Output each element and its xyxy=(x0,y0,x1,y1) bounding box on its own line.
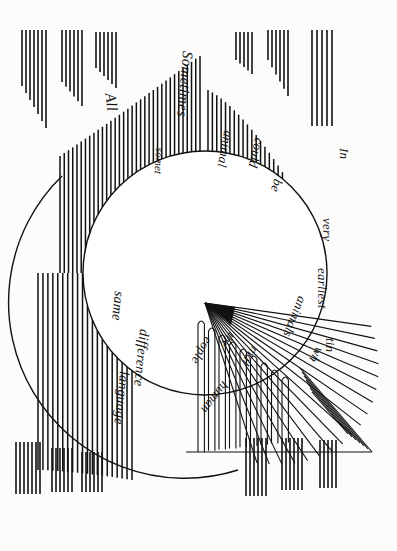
diagram-label-in: In xyxy=(336,148,352,159)
wedge-diagonal xyxy=(302,372,368,449)
wedge-diagonal xyxy=(312,392,348,434)
illustration-canvas: InveryearliesttinAllSometimessometanimal… xyxy=(0,0,397,551)
diagram-artwork xyxy=(0,0,397,551)
diagram-label-same: same xyxy=(108,290,127,321)
main-circle xyxy=(9,151,327,478)
diagram-label-all: All xyxy=(101,92,120,112)
diagram-label-earliest: earliest xyxy=(314,268,330,309)
diagram-label-very: very xyxy=(319,218,335,241)
diagram-label-somet: somet xyxy=(153,147,166,174)
wedge-diagonal xyxy=(310,388,352,437)
